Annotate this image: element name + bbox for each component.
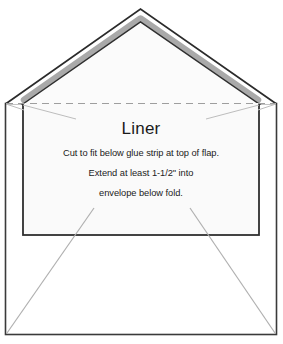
liner-region	[23, 104, 259, 235]
liner-flap-portion	[23, 22, 259, 104]
envelope-liner-diagram: Liner Cut to fit below glue strip at top…	[0, 0, 283, 344]
envelope-illustration	[0, 0, 283, 344]
